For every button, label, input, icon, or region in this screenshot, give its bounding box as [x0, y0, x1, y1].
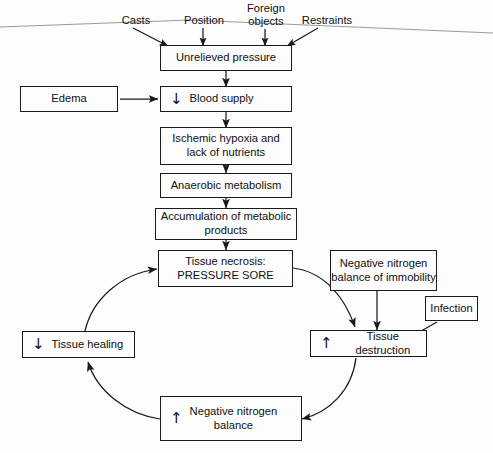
node-tissue-healing-label: Tissue healing	[52, 338, 124, 352]
node-unrelieved-pressure-label: Unrelieved pressure	[176, 51, 276, 65]
arrow-destruction-to-nitrogen-balance	[302, 358, 356, 419]
up-arrow-icon: ↑	[170, 411, 183, 426]
node-tissue-destruction: ↑ Tissue destruction	[310, 330, 427, 357]
node-tissue-healing: ↓ Tissue healing	[22, 331, 135, 358]
input-label-position: Position	[175, 14, 233, 27]
node-ischemic-hypoxia-label: Ischemic hypoxia and lack of nutrients	[172, 132, 280, 159]
node-tissue-destruction-label: Tissue destruction	[340, 330, 426, 357]
node-infection-label: Infection	[430, 302, 472, 316]
node-blood-supply: ↓ Blood supply	[160, 86, 292, 112]
down-arrow-icon: ↓	[170, 92, 183, 107]
node-negative-nitrogen-immobility-label: Negative nitrogen balance of immobility	[331, 257, 435, 284]
up-arrow-icon: ↑	[320, 336, 333, 351]
arrow-casts-to-pressure	[133, 28, 168, 46]
flowchart-diagram: Casts Position Foreign objects Restraint…	[0, 0, 493, 453]
node-unrelieved-pressure: Unrelieved pressure	[160, 45, 292, 71]
arrow-healing-to-necrosis	[85, 269, 157, 331]
arrow-restraints-to-pressure	[287, 28, 318, 46]
down-arrow-icon: ↓	[32, 337, 45, 352]
node-tissue-necrosis: Tissue necrosis: PRESSURE SORE	[158, 250, 293, 287]
node-edema-label: Edema	[51, 92, 86, 106]
node-ischemic-hypoxia: Ischemic hypoxia and lack of nutrients	[160, 127, 292, 165]
node-negative-nitrogen-balance-label: Negative nitrogen balance	[190, 405, 278, 432]
node-edema: Edema	[20, 86, 118, 112]
node-negative-nitrogen-balance: ↑ Negative nitrogen balance	[160, 396, 302, 441]
node-negative-nitrogen-immobility: Negative nitrogen balance of immobility	[330, 250, 437, 291]
node-accumulation-label: Accumulation of metabolic products	[161, 210, 292, 237]
input-label-restraints: Restraints	[298, 14, 356, 27]
node-anaerobic-metabolism: Anaerobic metabolism	[160, 173, 292, 198]
node-infection: Infection	[425, 296, 478, 321]
node-anaerobic-metabolism-label: Anaerobic metabolism	[171, 179, 282, 193]
input-label-foreign-objects: Foreign objects	[238, 2, 294, 29]
node-tissue-necrosis-label: Tissue necrosis: PRESSURE SORE	[177, 255, 273, 282]
arrow-nitrogen-balance-to-healing	[88, 362, 160, 419]
node-blood-supply-label: Blood supply	[190, 92, 254, 106]
input-label-casts: Casts	[113, 14, 159, 27]
node-accumulation-metabolic-products: Accumulation of metabolic products	[155, 208, 297, 240]
